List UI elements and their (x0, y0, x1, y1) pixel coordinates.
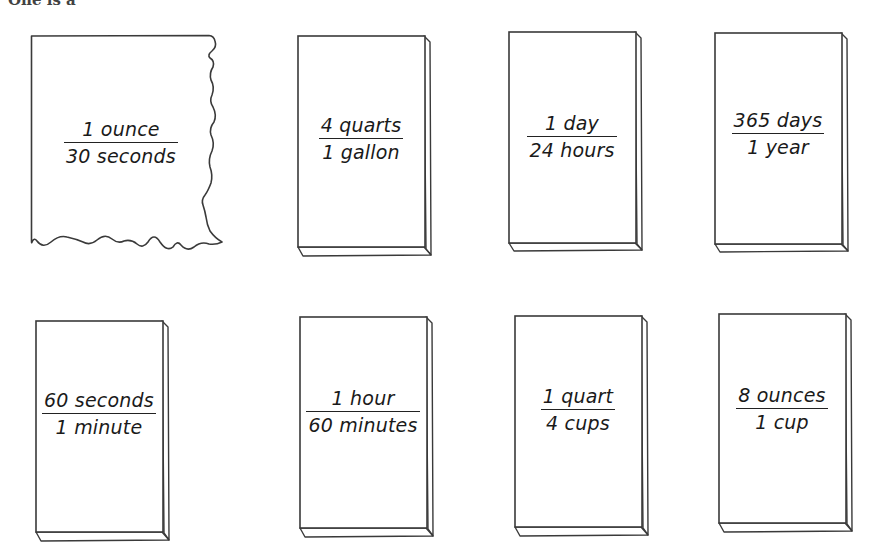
fraction-numerator: 4 quarts (319, 113, 404, 137)
fraction-denominator: 24 hours (527, 138, 616, 162)
fraction-bar (42, 413, 156, 414)
fraction-numerator: 365 days (732, 108, 825, 132)
conversion-card: 60 seconds 1 minute (35, 320, 172, 542)
fraction: 60 seconds 1 minute (35, 388, 163, 439)
fraction-bar (306, 411, 419, 412)
fraction-denominator: 60 minutes (306, 413, 419, 437)
fraction-bar (732, 133, 825, 134)
cut-off-heading-text: One is a (8, 0, 76, 9)
fraction: 1 ounce 30 seconds (31, 117, 211, 168)
conversion-card: 1 quart 4 cups (514, 315, 651, 537)
fraction-numerator: 8 ounces (736, 383, 827, 407)
fraction-bar (319, 138, 404, 139)
fraction: 8 ounces 1 cup (718, 383, 846, 434)
fraction: 1 day 24 hours (508, 111, 636, 162)
fraction: 4 quarts 1 gallon (297, 113, 425, 164)
fraction-numerator: 60 seconds (42, 388, 156, 412)
fraction-bar (541, 409, 616, 410)
fraction-denominator: 1 gallon (320, 140, 402, 164)
fraction-bar (736, 408, 827, 409)
fraction-denominator: 1 year (745, 135, 811, 159)
fraction-denominator: 1 minute (54, 415, 145, 439)
fraction-denominator: 1 cup (753, 410, 811, 434)
fraction-numerator: 1 ounce (80, 117, 161, 141)
fraction-numerator: 1 quart (541, 384, 616, 408)
fraction-bar (64, 142, 178, 143)
conversion-card: 8 ounces 1 cup (718, 313, 855, 535)
fraction-denominator: 4 cups (544, 411, 612, 435)
fraction-bar (527, 136, 616, 137)
fraction-numerator: 1 day (543, 111, 601, 135)
fraction-denominator: 30 seconds (64, 144, 178, 168)
conversion-card: 1 hour 60 minutes (299, 316, 436, 538)
conversion-card: 4 quarts 1 gallon (297, 35, 434, 257)
fraction: 1 hour 60 minutes (299, 386, 427, 437)
conversion-card: 1 day 24 hours (508, 31, 645, 253)
conversion-card: 365 days 1 year (714, 32, 851, 254)
fraction-numerator: 1 hour (330, 386, 397, 410)
fraction: 365 days 1 year (714, 108, 842, 159)
fraction: 1 quart 4 cups (514, 384, 642, 435)
conversion-card-torn: 1 ounce 30 seconds (31, 35, 231, 255)
